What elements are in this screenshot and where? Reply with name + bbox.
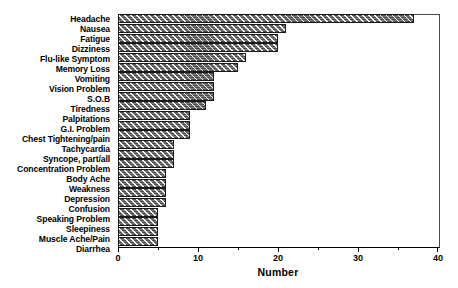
bar: [118, 92, 214, 101]
bar: [118, 34, 278, 43]
bar-row: [118, 14, 438, 24]
category-label: Vision Problem: [0, 84, 114, 94]
bar: [118, 237, 158, 246]
category-axis-labels: Headache Nausea Fatigue Dizziness Flu-li…: [0, 14, 114, 246]
category-label: Fatigue: [0, 34, 114, 44]
x-tick-label: 0: [115, 252, 120, 264]
bar-row: [118, 217, 438, 227]
bar: [118, 179, 166, 188]
x-tick-minor: [158, 247, 159, 250]
bar: [118, 63, 238, 72]
bar-row: [118, 101, 438, 111]
bar: [118, 121, 190, 130]
category-label: Confusion: [0, 204, 114, 214]
category-label: Dizziness: [0, 44, 114, 54]
bar: [118, 43, 278, 52]
bar-row: [118, 140, 438, 150]
category-label: G.I. Problem: [0, 124, 114, 134]
category-label: Concentration Problem: [0, 164, 114, 174]
category-label: Tiredness: [0, 104, 114, 114]
bar-row: [118, 33, 438, 43]
bar-row: [118, 207, 438, 217]
bar: [118, 53, 246, 62]
bar-row: [118, 43, 438, 53]
category-label: Vomiting: [0, 74, 114, 84]
bar: [118, 14, 414, 23]
bar-row: [118, 111, 438, 121]
x-tick-minor: [238, 247, 239, 250]
x-tick-label: 10: [193, 252, 203, 264]
bar: [118, 150, 174, 159]
x-tick-label: 20: [273, 252, 283, 264]
bar-row: [118, 24, 438, 34]
category-label: Muscle Ache/Pain: [0, 234, 114, 244]
bars-container: [118, 14, 438, 246]
x-axis-title: Number: [118, 266, 438, 278]
bar: [118, 217, 158, 226]
category-label: Memory Loss: [0, 64, 114, 74]
category-label: Diarrhea: [0, 244, 114, 254]
x-axis-tick-labels: 010203040: [118, 252, 438, 266]
horizontal-bar-chart: Headache Nausea Fatigue Dizziness Flu-li…: [0, 0, 458, 288]
category-label: Palpitations: [0, 114, 114, 124]
bar-row: [118, 178, 438, 188]
category-label: Sleepiness: [0, 224, 114, 234]
category-label: Nausea: [0, 24, 114, 34]
category-label: Speaking Problem: [0, 214, 114, 224]
bar-row: [118, 120, 438, 130]
bar-row: [118, 159, 438, 169]
bar: [118, 72, 214, 81]
x-tick-minor: [318, 247, 319, 250]
category-label: Tachycardia: [0, 144, 114, 154]
bar: [118, 227, 158, 236]
bar: [118, 188, 166, 197]
x-tick-minor: [398, 247, 399, 250]
bar: [118, 111, 190, 120]
category-label: Headache: [0, 14, 114, 24]
bar: [118, 140, 174, 149]
bar-row: [118, 72, 438, 82]
bar: [118, 101, 206, 110]
category-label: Flu-like Symptom: [0, 54, 114, 64]
bar: [118, 24, 286, 33]
bar: [118, 130, 190, 139]
category-label: Depression: [0, 194, 114, 204]
category-label: Body Ache: [0, 174, 114, 184]
bar-row: [118, 198, 438, 208]
bar: [118, 159, 174, 168]
bar-row: [118, 188, 438, 198]
bar-row: [118, 130, 438, 140]
bar-row: [118, 236, 438, 246]
bar-row: [118, 149, 438, 159]
category-label: Syncope, part/all: [0, 154, 114, 164]
x-tick-label: 40: [433, 252, 443, 264]
bar: [118, 208, 158, 217]
category-label: Chest Tightening/pain: [0, 134, 114, 144]
bar-row: [118, 169, 438, 179]
bar: [118, 198, 166, 207]
x-tick-label: 30: [353, 252, 363, 264]
bar-row: [118, 53, 438, 63]
category-label: S.O.B: [0, 94, 114, 104]
bar: [118, 169, 166, 178]
bar-row: [118, 227, 438, 237]
bar-row: [118, 62, 438, 72]
category-label: Weakness: [0, 184, 114, 194]
bar-row: [118, 91, 438, 101]
bar-row: [118, 82, 438, 92]
bar: [118, 82, 214, 91]
